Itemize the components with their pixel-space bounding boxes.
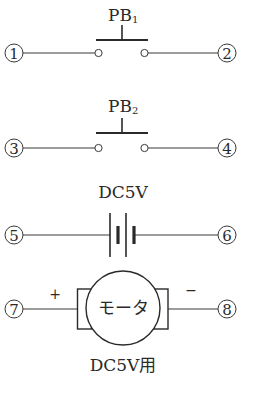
circuit-components-diagram: PB1 1 2 PB2 3 4 DC5V [0,0,257,396]
terminal-2-number: 2 [222,45,232,63]
terminal-1[interactable]: 1 [5,44,23,63]
terminal-3[interactable]: 3 [5,139,23,158]
pb1-contact-right [141,49,148,56]
terminal-4[interactable]: 4 [218,139,236,158]
motor-plus-sign: + [49,286,61,302]
terminal-7-number: 7 [9,301,19,319]
pb2-contact-right [141,144,148,151]
terminal-1-number: 1 [9,45,19,63]
motor-minus-sign: − [185,282,197,298]
pb2-label: PB2 [108,96,138,116]
battery-label: DC5V [98,182,148,202]
terminal-5[interactable]: 5 [5,226,23,245]
terminal-5-number: 5 [9,227,19,245]
push-button-pb1: PB1 1 2 [5,5,236,63]
motor-name: モータ [98,298,149,318]
pb1-label: PB1 [108,5,138,25]
terminal-8[interactable]: 8 [218,300,236,319]
terminal-3-number: 3 [9,140,19,158]
terminal-7[interactable]: 7 [5,300,23,319]
pb2-contact-left [95,144,102,151]
pb1-contact-left [95,49,102,56]
push-button-pb2: PB2 3 4 [5,96,236,158]
motor: + − モータ DC5V用 7 8 [5,271,236,375]
battery-dc5v: DC5V 5 6 [5,182,236,257]
terminal-6-number: 6 [222,227,232,245]
terminal-4-number: 4 [222,140,232,158]
terminal-8-number: 8 [222,301,232,319]
motor-rating: DC5V用 [90,355,157,375]
terminal-2[interactable]: 2 [218,44,236,63]
terminal-6[interactable]: 6 [218,226,236,245]
